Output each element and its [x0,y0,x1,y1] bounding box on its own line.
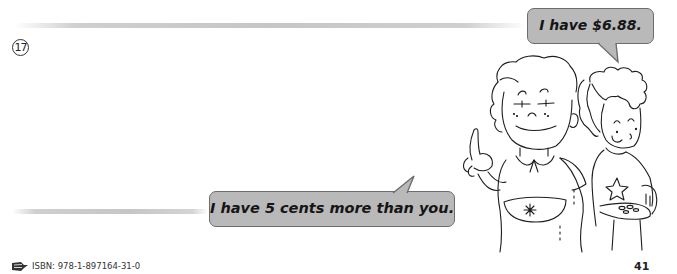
children-illustration [440,50,677,255]
bubble-tail-icon [596,40,628,64]
boy-character-icon [578,67,657,250]
speech-bubble-top: I have $6.88. [527,8,654,44]
isbn-text: ISBN: 978-1-897164-31-0 [32,261,140,271]
speech-text-top: I have $6.88. [539,17,642,33]
question-number: 17 [12,39,29,56]
speech-bubble-bottom: I have 5 cents more than you. [209,191,455,227]
flower-icon [524,204,536,216]
page-number: 41 [634,260,649,273]
answer-line-bottom[interactable] [12,209,208,214]
girl-character-icon [464,56,587,252]
isbn-footer: ISBN: 978-1-897164-31-0 [12,261,140,271]
speech-text-bottom: I have 5 cents more than you. [210,200,454,216]
book-icon [12,262,28,271]
answer-line-top[interactable] [14,23,526,28]
bubble-tail-icon [390,175,430,195]
